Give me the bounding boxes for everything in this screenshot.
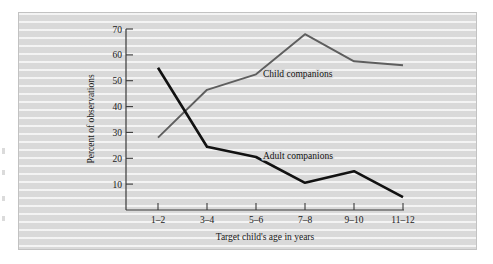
series-line-child-companions [158,34,403,137]
scan-artifact-mark [2,170,5,175]
x-tick-label: 7–8 [298,215,313,225]
x-tick-label: 9–10 [345,215,364,225]
series-label-text: Child companions [263,69,333,79]
x-tick-label: 5–6 [249,215,264,225]
x-axis-tick-labels: 1–2 3–4 5–6 7–8 9–10 11–12 [151,215,415,225]
x-axis-title: Target child's age in years [216,232,315,242]
scan-artifact-mark [2,196,5,201]
series-label-child-companions: Child companions Child companions [263,69,333,79]
y-tick-label: 50 [113,76,123,86]
y-axis-title: Percent of observations [86,74,96,163]
line-chart: 70 60 50 40 30 20 10 1–2 3–4 5–6 [19,13,477,250]
y-axis-tick-labels: 70 60 50 40 30 20 10 [113,25,123,190]
x-tick-label: 1–2 [151,215,166,225]
y-tick-label: 60 [113,50,123,60]
series-label-text: Adult companions [263,151,333,161]
series-label-adult-companions: Adult companions Adult companions [263,151,333,161]
x-axis-ticks [158,203,403,210]
y-tick-label: 30 [113,128,123,138]
y-axis-ticks [126,29,133,184]
chart-plate: 70 60 50 40 30 20 10 1–2 3–4 5–6 [18,12,477,250]
y-tick-label: 70 [113,25,123,35]
y-tick-label: 40 [113,102,123,112]
y-tick-label: 10 [113,180,123,190]
y-tick-label: 20 [113,154,123,164]
scan-artifact-mark [2,148,5,154]
scan-artifact-mark [2,216,5,221]
x-tick-label: 11–12 [391,215,415,225]
figure-container: 70 60 50 40 30 20 10 1–2 3–4 5–6 [0,0,493,264]
series-line-adult-companions [158,68,403,197]
x-tick-label: 3–4 [200,215,215,225]
